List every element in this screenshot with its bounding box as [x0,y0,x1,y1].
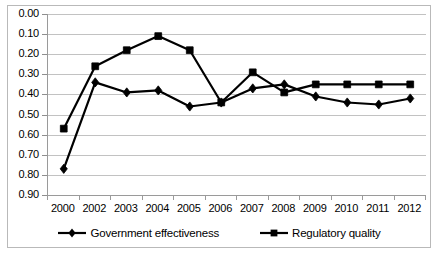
x-axis-tick-mark [47,195,48,200]
legend-marker-diamond-icon [57,227,87,239]
data-point-marker [155,86,162,95]
x-axis-tick-mark [394,195,395,200]
y-axis-tick-label: 0.00 [0,8,39,19]
y-axis-tick-label: 0.60 [0,129,39,140]
x-axis-tick-mark [142,195,143,200]
legend-item-label: Regulatory quality [292,227,380,239]
x-axis-tick-label: 2012 [387,202,431,214]
legend-item[interactable]: Government effectiveness [57,227,219,239]
x-axis-tick-mark [425,195,426,200]
x-axis-tick-mark [79,195,80,200]
data-point-marker [60,125,67,132]
data-point-marker [281,80,288,89]
data-point-marker [60,164,67,173]
series-line-square [64,36,411,129]
data-point-marker [375,81,382,88]
data-point-marker [407,81,414,88]
data-point-marker [218,99,225,106]
y-axis-tick-label: 0.20 [0,48,39,59]
chart-container: 0.000.100.200.300.400.500.600.700.800.90… [0,0,440,258]
data-point-marker [123,88,130,97]
series-line-diamond [64,82,411,168]
y-axis-tick-label: 0.50 [0,109,39,120]
data-point-marker [312,81,319,88]
x-axis-tick-mark [362,195,363,200]
y-axis-tick-label: 0.10 [0,28,39,39]
data-point-marker [344,98,351,107]
data-point-marker [92,78,99,87]
y-axis-tick-label: 0.30 [0,68,39,79]
data-point-marker [123,47,130,54]
chart-legend: Government effectivenessRegulatory quali… [7,222,431,244]
data-point-marker [249,69,256,76]
x-axis-tick-mark [173,195,174,200]
data-point-marker [92,63,99,70]
data-point-marker [249,84,256,93]
data-point-marker [186,102,193,111]
plot-area [47,14,425,195]
x-axis-tick-mark [205,195,206,200]
y-axis-tick-label: 0.80 [0,169,39,180]
x-axis-tick-mark [110,195,111,200]
y-axis-tick-label: 0.40 [0,88,39,99]
data-point-marker [407,94,414,103]
x-axis-tick-mark [331,195,332,200]
x-axis-tick-mark [268,195,269,200]
x-axis-tick-mark [236,195,237,200]
legend-item[interactable]: Regulatory quality [259,227,380,239]
y-axis-tick-label: 0.90 [0,189,39,200]
legend-item-label: Government effectiveness [90,227,219,239]
data-point-marker [155,33,162,40]
data-point-marker [312,92,319,101]
series-lines [48,14,426,195]
data-point-marker [344,81,351,88]
y-axis-tick-label: 0.70 [0,149,39,160]
x-axis-tick-mark [299,195,300,200]
data-point-marker [186,47,193,54]
legend-marker-square-icon [259,227,289,239]
data-point-marker [375,100,382,109]
data-point-marker [281,89,288,96]
